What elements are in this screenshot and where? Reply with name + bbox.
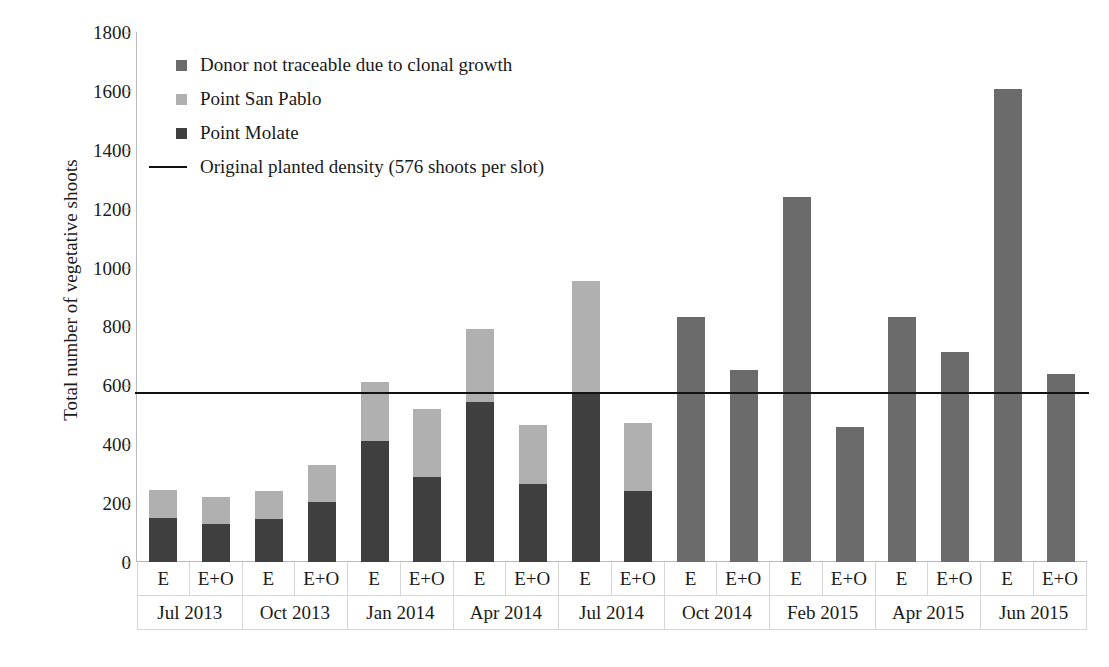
x-slot-label: E+O	[1034, 562, 1087, 596]
bar	[783, 197, 811, 562]
y-tick-label: 1800	[0, 23, 131, 42]
x-slot-label: E+O	[823, 562, 876, 596]
legend-item: Point Molate	[176, 116, 544, 150]
y-tick-label: 200	[0, 494, 131, 513]
bar-segment-molate	[466, 402, 494, 562]
y-tick-mark	[124, 326, 131, 327]
legend-item: Point San Pablo	[176, 82, 544, 116]
bar-segment-untraceable	[994, 89, 1022, 562]
x-slot-label: E+O	[190, 562, 243, 596]
bar	[413, 409, 441, 562]
legend-label: Point Molate	[200, 122, 299, 144]
bar-segment-sanpablo	[361, 382, 389, 441]
bar-segment-molate	[624, 491, 652, 562]
bar	[1047, 374, 1075, 562]
bar-segment-untraceable	[783, 197, 811, 562]
bar	[572, 281, 600, 562]
chart-legend: Donor not traceable due to clonal growth…	[176, 48, 544, 184]
x-slot-label: E+O	[717, 562, 770, 596]
bar	[677, 317, 705, 562]
x-axis-group-labels: Jul 2013Oct 2013Jan 2014Apr 2014Jul 2014…	[137, 596, 1087, 630]
y-tick-mark	[124, 209, 131, 210]
x-group-label: Feb 2015	[770, 596, 876, 630]
y-tick-label: 1600	[0, 81, 131, 100]
y-tick-mark	[124, 32, 131, 33]
bar-segment-molate	[361, 441, 389, 562]
x-slot-label: E	[770, 562, 823, 596]
x-axis-labels: EE+OEE+OEE+OEE+OEE+OEE+OEE+OEE+OEE+O Jul…	[137, 562, 1087, 630]
y-tick-mark	[124, 91, 131, 92]
x-group-label: Jan 2014	[348, 596, 454, 630]
bar	[994, 89, 1022, 562]
bar-segment-untraceable	[730, 370, 758, 562]
bar-segment-molate	[413, 477, 441, 562]
bar-segment-untraceable	[677, 317, 705, 562]
chart-figure: Total number of vegetative shoots 020040…	[0, 0, 1109, 667]
y-tick-mark	[124, 268, 131, 269]
y-tick-label: 1400	[0, 140, 131, 159]
x-slot-label: E+O	[612, 562, 665, 596]
x-slot-label: E	[348, 562, 401, 596]
bar-segment-sanpablo	[572, 281, 600, 392]
bar	[308, 465, 336, 562]
x-group-label: Jul 2013	[137, 596, 243, 630]
bar	[255, 491, 283, 562]
x-group-label: Jul 2014	[559, 596, 665, 630]
y-tick-label: 1000	[0, 258, 131, 277]
x-group-label: Jun 2015	[981, 596, 1087, 630]
y-tick-mark	[124, 150, 131, 151]
legend-label: Original planted density (576 shoots per…	[200, 156, 544, 178]
y-tick-label: 600	[0, 376, 131, 395]
bar-segment-molate	[519, 484, 547, 562]
x-slot-label: E	[559, 562, 612, 596]
y-tick-label: 400	[0, 435, 131, 454]
bar-segment-sanpablo	[202, 497, 230, 524]
legend-square-marker-icon	[176, 94, 187, 105]
x-axis-slot-labels: EE+OEE+OEE+OEE+OEE+OEE+OEE+OEE+OEE+O	[137, 562, 1087, 596]
x-slot-label: E+O	[928, 562, 981, 596]
legend-square-marker-icon	[176, 60, 187, 71]
y-tick-label: 1200	[0, 199, 131, 218]
x-slot-label: E	[243, 562, 296, 596]
bar	[888, 317, 916, 562]
bar-segment-untraceable	[941, 352, 969, 562]
reference-line	[135, 392, 1089, 394]
bar-segment-molate	[308, 502, 336, 562]
bar-segment-untraceable	[888, 317, 916, 562]
bar-segment-molate	[149, 518, 177, 562]
legend-label: Point San Pablo	[200, 88, 321, 110]
y-tick-mark	[124, 503, 131, 504]
bar-segment-sanpablo	[308, 465, 336, 502]
x-group-label: Oct 2013	[243, 596, 349, 630]
x-slot-label: E	[876, 562, 929, 596]
bar	[519, 425, 547, 562]
bar	[941, 352, 969, 562]
x-slot-label: E	[665, 562, 718, 596]
x-slot-label: E	[981, 562, 1034, 596]
x-slot-label: E+O	[295, 562, 348, 596]
x-slot-label: E+O	[401, 562, 454, 596]
bar-segment-untraceable	[836, 427, 864, 562]
legend-item: Donor not traceable due to clonal growth	[176, 48, 544, 82]
y-tick-mark	[124, 562, 131, 563]
bar	[730, 370, 758, 562]
bar-segment-sanpablo	[519, 425, 547, 484]
x-group-label: Oct 2014	[665, 596, 771, 630]
x-slot-label: E	[137, 562, 190, 596]
x-group-label: Apr 2015	[876, 596, 982, 630]
bar-segment-sanpablo	[413, 409, 441, 477]
x-group-label: Apr 2014	[454, 596, 560, 630]
y-tick-label: 0	[0, 553, 131, 572]
bar-segment-sanpablo	[149, 490, 177, 518]
legend-label: Donor not traceable due to clonal growth	[200, 54, 512, 76]
bar-segment-molate	[572, 392, 600, 562]
y-tick-label: 800	[0, 317, 131, 336]
bar-segment-sanpablo	[255, 491, 283, 519]
bar	[361, 382, 389, 562]
x-slot-label: E	[454, 562, 507, 596]
bar-segment-molate	[255, 519, 283, 562]
x-slot-label: E+O	[506, 562, 559, 596]
bar	[466, 329, 494, 562]
bar-segment-molate	[202, 524, 230, 562]
bar	[624, 423, 652, 562]
